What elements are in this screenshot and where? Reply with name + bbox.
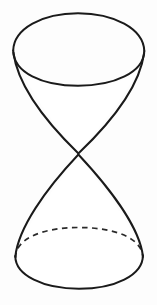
top-ellipse-group — [13, 13, 144, 86]
double-cone-figure — [0, 0, 157, 305]
double-cone-drawing — [0, 0, 157, 305]
cone-surfaces — [14, 52, 144, 290]
top-ellipse-back-arc — [13, 13, 144, 51]
lower-nappe-fill — [16, 155, 143, 289]
